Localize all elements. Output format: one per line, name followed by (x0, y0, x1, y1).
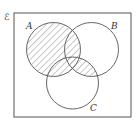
set-c-label: C (90, 103, 97, 113)
universal-set-symbol: ℰ (4, 12, 10, 22)
venn-diagram: ℰ A B C (0, 0, 136, 125)
set-b-label: B (110, 21, 118, 31)
set-a-label: A (25, 21, 33, 31)
